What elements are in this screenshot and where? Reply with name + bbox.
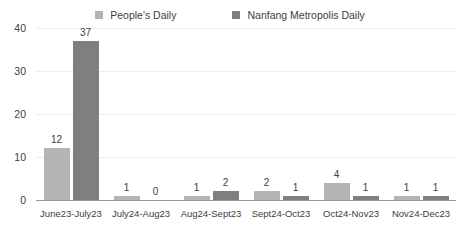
x-axis-tick-label: Nov24-Dec23 [386,204,456,228]
legend-swatch-icon-peoples-daily [95,11,103,19]
bar-value-label: 0 [153,187,159,197]
bar-value-label: 2 [223,178,229,188]
bar[interactable] [213,191,239,200]
bar-value-label: 1 [124,183,130,193]
bar-slot[interactable]: 12 [44,28,70,200]
bar-value-label: 1 [433,183,439,193]
y-axis-tick-label: 20 [14,109,26,120]
bar-group: 41 [316,28,386,200]
legend-swatch-icon-nanfang-metropolis-daily [232,11,240,19]
legend-item-peoples-daily[interactable]: People's Daily [95,10,176,21]
bar-value-label: 1 [293,183,299,193]
bar-slot[interactable]: 2 [254,28,280,200]
bar-slot[interactable]: 1 [353,28,379,200]
y-axis-tick-label: 40 [14,23,26,34]
bar-value-label: 1 [404,183,410,193]
bar-group: 10 [106,28,176,200]
x-axis-tick-label: Oct24-Nov23 [316,204,386,228]
x-axis-labels: June23-July23July24-Aug23Aug24-Sept23Sep… [36,204,456,228]
bar[interactable] [73,41,99,200]
bar-slot[interactable]: 0 [143,28,169,200]
bar-value-label: 1 [363,183,369,193]
chart-legend: People's Daily Nanfang Metropolis Daily [0,6,460,24]
x-axis-tick-label: June23-July23 [36,204,106,228]
bar-slot[interactable]: 2 [213,28,239,200]
bar-slot[interactable]: 1 [423,28,449,200]
x-axis-tick-label: July24-Aug23 [106,204,176,228]
x-axis-line [36,200,456,201]
bar-value-label: 12 [51,135,62,145]
bar-slot[interactable]: 1 [184,28,210,200]
bar-value-label: 4 [334,170,340,180]
bar-slot[interactable]: 1 [394,28,420,200]
bar-group: 1237 [36,28,106,200]
y-axis-tick-label: 0 [20,195,26,206]
bar-value-label: 1 [194,183,200,193]
bar[interactable] [44,148,70,200]
bar-slot[interactable]: 1 [283,28,309,200]
y-axis: 010203040 [0,28,32,200]
legend-label-peoples-daily: People's Daily [110,10,176,21]
bar-slot[interactable]: 4 [324,28,350,200]
bar-group: 12 [176,28,246,200]
bar-slot[interactable]: 37 [73,28,99,200]
bar-value-label: 2 [264,178,270,188]
bar[interactable] [324,183,350,200]
x-axis-tick-label: Sept24-Oct23 [246,204,316,228]
plot-area: 010203040 12371012214111 June23-July23Ju… [0,28,460,235]
bar-group: 11 [386,28,456,200]
legend-label-nanfang-metropolis-daily: Nanfang Metropolis Daily [247,10,364,21]
bar-group: 21 [246,28,316,200]
bar-slot[interactable]: 1 [114,28,140,200]
legend-item-nanfang-metropolis-daily[interactable]: Nanfang Metropolis Daily [232,10,364,21]
x-axis-tick-label: Aug24-Sept23 [176,204,246,228]
bar-value-label: 37 [80,28,91,38]
bar[interactable] [254,191,280,200]
grouped-bar-chart: People's Daily Nanfang Metropolis Daily … [0,0,460,235]
bars-container: 12371012214111 [36,28,456,200]
y-axis-tick-label: 30 [14,66,26,77]
y-axis-tick-label: 10 [14,152,26,163]
